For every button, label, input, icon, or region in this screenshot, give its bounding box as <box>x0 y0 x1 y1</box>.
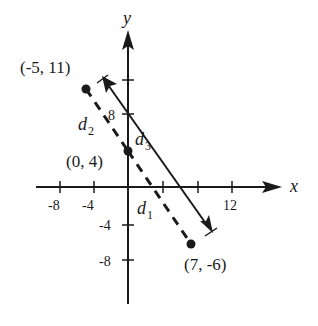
label-d3: d 3 <box>135 129 151 153</box>
svg-text:d: d <box>137 198 147 218</box>
y-axis <box>122 30 134 304</box>
segment-d2 <box>86 89 128 151</box>
point-label-neg5-11: (-5, 11) <box>20 58 70 77</box>
x-tick-neg8: -8 <box>48 198 60 213</box>
x-axis-label: x <box>289 176 298 196</box>
y-tick-neg8: -8 <box>99 254 111 269</box>
svg-text:3: 3 <box>145 139 151 153</box>
coordinate-diagram: x -8 -4 12 y 8 -4 -8 (-5, 11) (0, 4) (7,… <box>0 0 318 326</box>
x-tick-neg4: -4 <box>82 198 94 213</box>
segment-d3 <box>97 75 217 236</box>
svg-text:1: 1 <box>147 208 153 222</box>
label-d2: d 2 <box>78 114 94 138</box>
svg-text:2: 2 <box>88 124 94 138</box>
y-axis-label: y <box>121 8 131 28</box>
point-label-0-4: (0, 4) <box>66 152 103 171</box>
y-tick-neg4: -4 <box>99 218 111 233</box>
svg-text:d: d <box>78 114 88 134</box>
point-0-4 <box>124 147 133 156</box>
point-neg5-11 <box>82 85 91 94</box>
x-axis <box>36 181 282 193</box>
label-d1: d 1 <box>137 198 153 222</box>
point-7-neg6 <box>187 240 196 249</box>
x-tick-12: 12 <box>223 198 237 213</box>
point-label-7-neg6: (7, -6) <box>184 255 226 274</box>
svg-text:d: d <box>135 129 145 149</box>
